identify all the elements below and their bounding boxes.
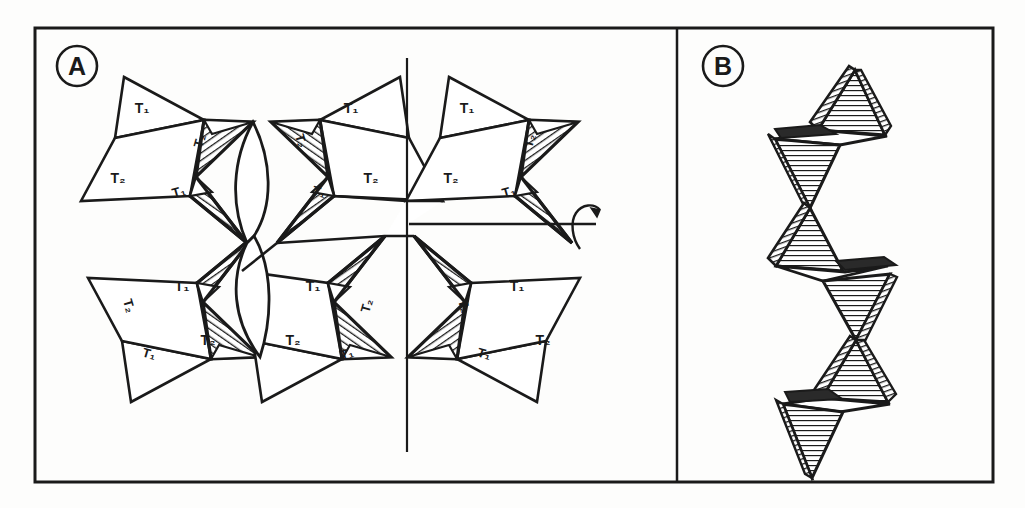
canvas-background [0,0,1025,508]
tetra-label-t1: T₁ [510,278,525,294]
tetra-label-t1: T₁ [135,100,150,116]
tetra-label-t2: T₂ [364,170,379,186]
panel-b-badge-label: B [714,52,732,80]
tetra-label-t1: T₁ [306,278,321,294]
tetra-label-t2: T₂ [444,170,459,186]
tetra-label-t1: T₁ [460,100,475,116]
tetra-label-t1: T₁ [175,278,190,294]
tetra-label-t2: T₂ [201,332,216,348]
figure-canvas: A T₁ T₂ T₂ T₁ [0,0,1025,508]
tetra-label-t2: T₂ [111,170,126,186]
tetra-label-t2: T₂ [536,332,551,348]
panel-a-badge-label: A [68,52,86,80]
figure-svg: A T₁ T₂ T₂ T₁ [0,0,1025,508]
tetra-label-t1: T₁ [344,100,359,116]
tetra-label-t2: T₂ [286,332,301,348]
